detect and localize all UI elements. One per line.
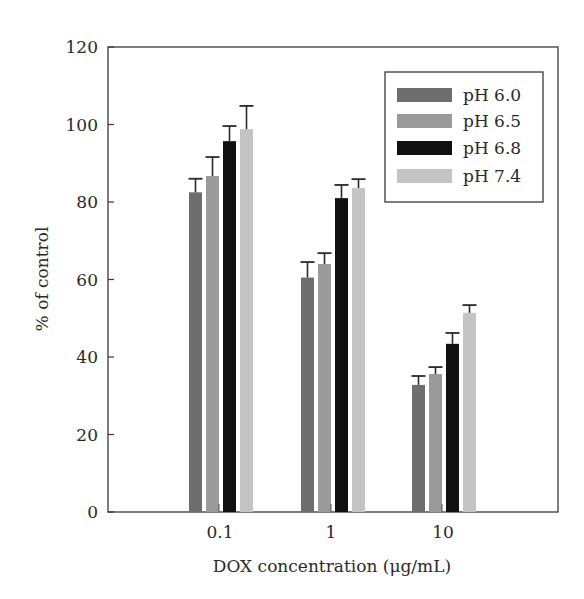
y-axis-title: % of control (32, 227, 52, 332)
bar (189, 192, 202, 512)
legend-label: pH 7.4 (463, 166, 521, 186)
bar (446, 344, 459, 512)
legend-label: pH 6.5 (463, 111, 521, 131)
bar-ph-7.4-10 (463, 305, 477, 512)
bar (240, 129, 253, 512)
legend-swatch (397, 169, 452, 183)
bar-ph-7.4-0.1 (240, 106, 254, 512)
bar (206, 176, 219, 512)
y-tick-label: 80 (76, 192, 98, 212)
bar-chart: 020406080100120 0.1110 pH 6.0pH 6.5pH 6.… (0, 0, 584, 599)
x-axis-title: DOX concentration (μg/mL) (213, 556, 451, 576)
bar (335, 198, 348, 512)
y-tick-label: 40 (76, 347, 98, 367)
y-tick-label: 100 (66, 115, 98, 135)
x-tick-label: 0.1 (206, 522, 233, 542)
legend-swatch (397, 141, 452, 155)
y-tick-label: 20 (76, 425, 98, 445)
y-tick-label: 120 (66, 37, 98, 57)
bar-ph-6.5-10 (429, 367, 443, 512)
bar (352, 188, 365, 512)
y-axis: 020406080100120 (66, 37, 114, 522)
bar (429, 374, 442, 512)
legend-swatch (397, 88, 452, 102)
bar (301, 278, 314, 512)
bar-ph-6.8-0.1 (223, 126, 237, 512)
bar (463, 313, 476, 512)
bar-ph-6.0-1 (301, 262, 315, 512)
legend-label: pH 6.0 (463, 85, 521, 105)
y-tick-label: 60 (76, 270, 98, 290)
bar-ph-6.8-1 (335, 185, 349, 512)
bar-ph-6.0-10 (412, 376, 426, 512)
bar-ph-7.4-1 (352, 179, 366, 512)
legend-label: pH 6.8 (463, 138, 521, 158)
legend-swatch (397, 114, 452, 128)
bar-ph-6.5-1 (318, 253, 332, 512)
bar-ph-6.0-0.1 (189, 179, 203, 512)
bar (412, 385, 425, 512)
bar (318, 264, 331, 512)
legend: pH 6.0pH 6.5pH 6.8pH 7.4 (385, 72, 543, 202)
bar-ph-6.8-10 (446, 333, 460, 512)
x-tick-label: 10 (432, 522, 454, 542)
bar-ph-6.5-0.1 (206, 157, 220, 512)
x-tick-label: 1 (326, 522, 337, 542)
y-tick-label: 0 (87, 502, 98, 522)
bar (223, 141, 236, 512)
